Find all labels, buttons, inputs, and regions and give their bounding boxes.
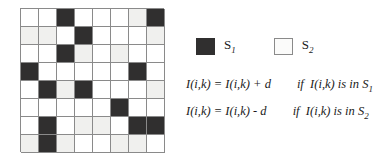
grid-cell xyxy=(93,117,111,135)
equation-row-s2: I(i,k) = I(i,k) - d if I(i,k) is in S2 xyxy=(186,105,373,121)
grid-cell xyxy=(111,27,129,45)
grid-cell xyxy=(93,63,111,81)
grid-cell xyxy=(39,135,57,153)
grid-cell xyxy=(147,27,165,45)
grid-cell xyxy=(21,45,39,63)
grid-cell xyxy=(39,117,57,135)
grid-cell xyxy=(57,63,75,81)
grid-cell xyxy=(93,81,111,99)
grid-cell xyxy=(57,135,75,153)
grid-cell xyxy=(147,63,165,81)
grid-cell xyxy=(75,99,93,117)
grid-cell xyxy=(39,99,57,117)
grid-cell xyxy=(39,81,57,99)
grid-cell xyxy=(147,81,165,99)
grid-cell xyxy=(129,63,147,81)
grid-cell xyxy=(93,99,111,117)
grid-cell xyxy=(75,81,93,99)
grid-cell xyxy=(129,27,147,45)
legend-label-s2: S2 xyxy=(302,38,314,55)
equation-condition-s1: if I(i,k) is in S1 xyxy=(297,78,373,94)
grid-cell xyxy=(21,117,39,135)
grid-cell xyxy=(75,117,93,135)
grid-cell xyxy=(129,99,147,117)
grid-cell xyxy=(21,27,39,45)
grid-cell xyxy=(39,9,57,27)
grid-cell xyxy=(21,81,39,99)
grid-cell xyxy=(129,9,147,27)
equation-expression-s2: I(i,k) = I(i,k) - d xyxy=(186,105,267,118)
grid-cell xyxy=(57,45,75,63)
grid-cell xyxy=(129,117,147,135)
grid-cell xyxy=(111,9,129,27)
grid-cell xyxy=(129,81,147,99)
legend-item-s2: S2 xyxy=(274,38,314,55)
grid-cell xyxy=(129,45,147,63)
equation-condition-s2: if I(i,k) is in S2 xyxy=(293,105,369,121)
grid-cell xyxy=(93,45,111,63)
grid-cell xyxy=(75,135,93,153)
grid-cell xyxy=(93,27,111,45)
grid-cell xyxy=(129,135,147,153)
grid-cell xyxy=(111,117,129,135)
grid-cell xyxy=(57,27,75,45)
grid-cell xyxy=(147,9,165,27)
grid-cell xyxy=(39,45,57,63)
grid-cell xyxy=(21,135,39,153)
equation-block: I(i,k) = I(i,k) + d if I(i,k) is in S1 I… xyxy=(186,78,373,131)
equation-expression-s1: I(i,k) = I(i,k) + d xyxy=(186,78,271,91)
grid-cell xyxy=(75,45,93,63)
equation-row-s1: I(i,k) = I(i,k) + d if I(i,k) is in S1 xyxy=(186,78,373,94)
grid-cell xyxy=(147,135,165,153)
legend-swatch-s1-icon xyxy=(196,38,215,55)
grid-cell xyxy=(39,63,57,81)
grid-cell xyxy=(111,135,129,153)
legend: S1 S2 xyxy=(196,38,313,55)
grid-cell xyxy=(111,63,129,81)
grid-cell xyxy=(75,63,93,81)
grid-cell xyxy=(57,9,75,27)
grid-cell xyxy=(21,63,39,81)
grid-cell xyxy=(111,81,129,99)
grid-cell xyxy=(93,135,111,153)
checkerboard-grid xyxy=(20,8,164,152)
grid-cell xyxy=(147,117,165,135)
legend-label-s1: S1 xyxy=(224,38,236,55)
grid-cell xyxy=(39,27,57,45)
grid-cell xyxy=(21,9,39,27)
grid-cell xyxy=(111,99,129,117)
legend-swatch-s2-icon xyxy=(274,38,293,55)
legend-item-s1: S1 xyxy=(196,38,236,55)
grid-cell xyxy=(111,45,129,63)
grid-cell xyxy=(21,99,39,117)
grid-cell xyxy=(147,99,165,117)
grid-cell xyxy=(57,117,75,135)
grid-cell xyxy=(75,27,93,45)
grid-cell xyxy=(57,81,75,99)
grid-cell xyxy=(93,9,111,27)
grid-cell xyxy=(75,9,93,27)
grid-cell xyxy=(57,99,75,117)
grid-cell xyxy=(147,45,165,63)
